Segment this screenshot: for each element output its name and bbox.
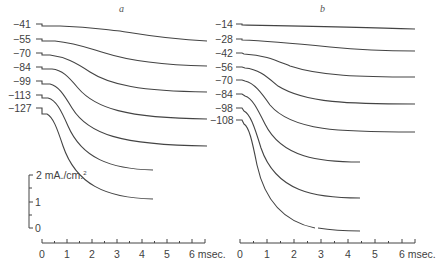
trace-label-a-6: −127 bbox=[8, 102, 32, 114]
trace-label-b-2: −42 bbox=[215, 47, 233, 59]
x-axis-a bbox=[42, 239, 205, 243]
x-tick-a-2: 2 bbox=[89, 248, 95, 260]
x-tick-b-2: 2 bbox=[291, 248, 297, 260]
x-axis-b bbox=[240, 239, 415, 243]
trace-a-127 bbox=[36, 108, 153, 199]
x-tick-a-0: 0 bbox=[39, 248, 45, 260]
scale-label-1: 1 bbox=[35, 196, 41, 208]
trace-label-b-4: −70 bbox=[215, 74, 233, 86]
trace-label-a-4: −99 bbox=[13, 75, 31, 87]
x-tick-a-3: 3 bbox=[114, 248, 120, 260]
trace-label-b-1: −28 bbox=[215, 33, 233, 45]
trace-a-41 bbox=[36, 24, 207, 41]
trace-label-a-5: −113 bbox=[8, 89, 31, 101]
scale-label-2: 2 mA./cm.2 bbox=[36, 169, 87, 181]
scale-label-0: 0 bbox=[35, 222, 41, 234]
x-tick-b-5: 5 bbox=[372, 248, 378, 260]
trace-label-b-5: −84 bbox=[215, 88, 233, 100]
trace-b-108 bbox=[236, 120, 360, 231]
x-tick-a-1: 1 bbox=[64, 248, 70, 260]
x-tick-b-4: 4 bbox=[345, 248, 351, 260]
trace-label-a-2: −70 bbox=[13, 47, 31, 59]
panel-b-label: b bbox=[320, 3, 325, 14]
x-tick-b-1: 1 bbox=[264, 248, 270, 260]
figure: a b −41 −55 −70 −84 −99 −113 −127 2 mA./… bbox=[0, 0, 437, 267]
trace-label-b-7: −108 bbox=[210, 114, 234, 126]
trace-b-56 bbox=[236, 67, 415, 104]
trace-b-28 bbox=[236, 39, 415, 51]
trace-b-42 bbox=[236, 53, 415, 77]
x-tick-a-5: 5 bbox=[164, 248, 170, 260]
trace-label-b-6: −98 bbox=[215, 102, 233, 114]
trace-a-113 bbox=[36, 95, 153, 170]
x-tick-a-6: 6 msec. bbox=[189, 248, 226, 260]
panel-a: −41 −55 −70 −84 −99 −113 −127 2 mA./cm.2… bbox=[8, 18, 226, 260]
x-tick-b-3: 3 bbox=[318, 248, 324, 260]
y-scale-bar bbox=[29, 175, 33, 228]
panel-a-label: a bbox=[119, 3, 124, 14]
panel-b: −14 −28 −42 −56 −70 −84 −98 −108 0 1 2 3… bbox=[210, 18, 436, 260]
trace-b-14 bbox=[236, 24, 415, 29]
trace-label-b-0: −14 bbox=[215, 18, 233, 30]
x-tick-a-4: 4 bbox=[139, 248, 145, 260]
trace-b-70 bbox=[236, 80, 415, 132]
trace-label-a-1: −55 bbox=[13, 33, 31, 45]
trace-label-a-3: −84 bbox=[13, 61, 31, 73]
x-tick-b-6: 6 msec. bbox=[399, 248, 436, 260]
trace-a-55 bbox=[36, 39, 207, 66]
x-tick-b-0: 0 bbox=[237, 248, 243, 260]
trace-label-b-3: −56 bbox=[215, 61, 233, 73]
trace-label-a-0: −41 bbox=[13, 18, 31, 30]
